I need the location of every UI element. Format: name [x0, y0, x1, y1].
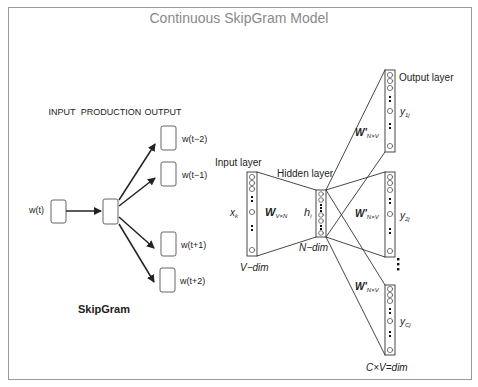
output-label-2: w(t−1): [181, 170, 207, 180]
hidden-var-label: hi: [304, 206, 312, 219]
input-layer-column: [247, 172, 257, 256]
output-layer-label: Output layer: [399, 72, 454, 83]
weight-out-label-2: W'N×V: [355, 208, 380, 220]
output-box-2: [161, 162, 176, 186]
network-diagram: Input layer Hidden layer Output layer xk…: [215, 70, 454, 373]
output-var-label-3: yCj: [399, 316, 411, 328]
output-var-label-1: y1j: [399, 106, 410, 118]
header-production: PRODUCTION: [81, 107, 142, 117]
input-box: [51, 200, 66, 223]
skipgram-diagram: INPUT PRODUCTION OUTPUT w(t) w(t−2) w(t−…: [28, 107, 207, 315]
hidden-layer-column: [316, 190, 326, 237]
output-label-3: w(t+1): [180, 240, 206, 250]
output-label-4: w(t+2): [179, 276, 205, 286]
header-input: INPUT: [49, 107, 77, 117]
more-outputs-ellipsis: [397, 258, 399, 270]
v-dim-label: V−dim: [240, 262, 269, 273]
weight-out-label-3: W'N×V: [355, 281, 380, 293]
hidden-layer-label: Hidden layer: [277, 168, 334, 179]
output-layer-column-1: [385, 70, 395, 152]
output-layer-column-2: [385, 172, 395, 257]
header-output: OUTPUT: [145, 107, 183, 117]
output-box-3: [161, 232, 176, 256]
weight-out-label-1: W'N×V: [355, 127, 380, 139]
output-label-1: w(t−2): [181, 134, 207, 144]
skipgram-caption: SkipGram: [78, 303, 130, 315]
output-layer-column-3: [385, 285, 395, 355]
n-dim-label: N−dim: [299, 242, 328, 253]
output-box-4: [160, 268, 175, 292]
input-layer-label: Input layer: [215, 157, 262, 168]
input-var-label: xk: [229, 207, 239, 219]
output-box-1: [161, 126, 176, 150]
input-word-label: w(t): [28, 205, 44, 215]
diagram-canvas: INPUT PRODUCTION OUTPUT w(t) w(t−2) w(t−…: [0, 0, 478, 387]
production-box: [103, 199, 118, 224]
weight-in-label: WV×N: [265, 206, 288, 219]
output-var-label-2: y2j: [399, 210, 410, 222]
cv-dim-label: C×V=dim: [366, 362, 408, 373]
